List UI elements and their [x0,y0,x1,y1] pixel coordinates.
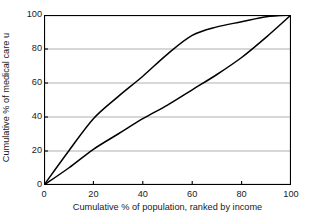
axis-tick-marks [44,15,291,185]
data-series-layer [44,15,291,185]
y-tick-label: 80 [16,44,42,53]
x-tick-label: 40 [127,190,159,199]
plot-svg [44,15,291,185]
x-tick-label: 100 [275,190,307,199]
x-tick-label: 20 [77,190,109,199]
x-axis-title-text: Cumulative % of population, ranked by in… [73,202,262,212]
plot-area [44,15,291,185]
chart-figure: Cumulative % of medical care u 020406080… [0,0,309,223]
gridlines [44,49,291,151]
y-axis-title-text: Cumulative % of medical care u [2,33,11,162]
y-tick-label: 40 [16,112,42,121]
series-line-2 [44,15,291,185]
y-tick-label: 60 [16,78,42,87]
x-tick-label: 0 [28,190,60,199]
x-axis-title: Cumulative % of population, ranked by in… [44,203,291,212]
y-tick-label: 0 [16,180,42,189]
x-tick-label: 60 [176,190,208,199]
x-tick-label: 80 [226,190,258,199]
y-tick-label: 20 [16,146,42,155]
y-tick-label: 100 [16,10,42,19]
series-line-1 [44,15,291,185]
